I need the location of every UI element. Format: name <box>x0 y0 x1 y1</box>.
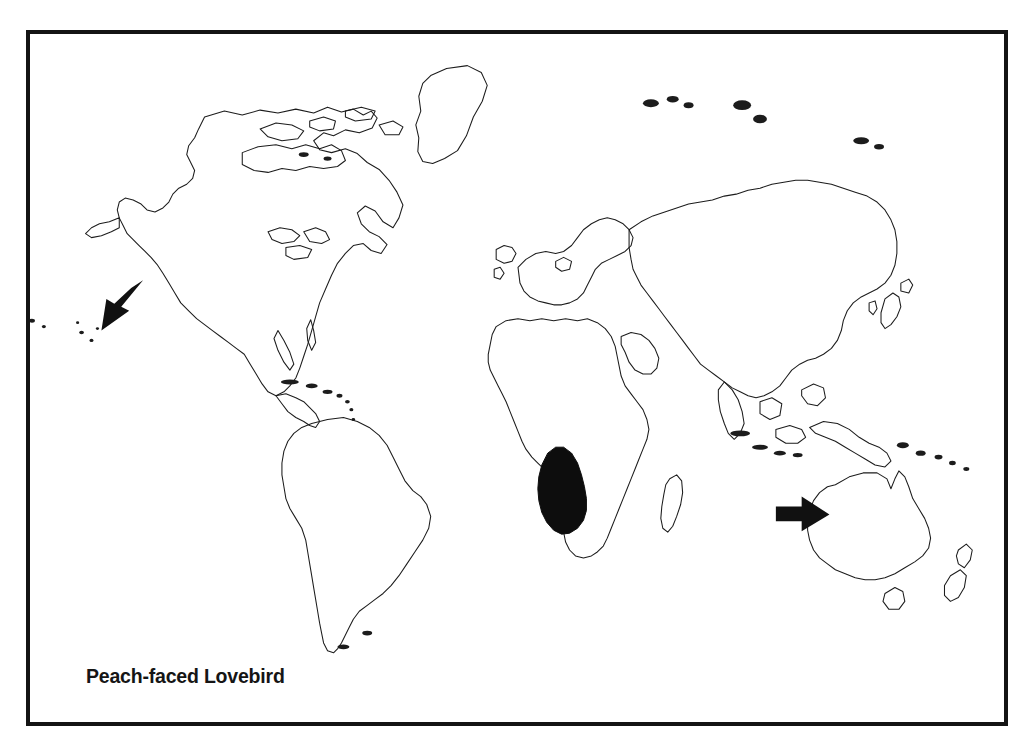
map-frame-border: Peach-faced Lovebird <box>26 30 1008 726</box>
landmass-central-america-caribbean <box>276 379 355 427</box>
arrow-hawaii <box>101 280 143 330</box>
landmass-hawaii <box>30 319 99 342</box>
distribution-map-figure: Peach-faced Lovebird <box>0 0 1032 750</box>
landmass-south-america <box>282 418 431 653</box>
landmass-africa <box>488 319 682 558</box>
map-canvas <box>30 34 1004 722</box>
landmass-europe <box>494 218 633 305</box>
landmass-north-america <box>86 107 403 396</box>
figure-caption: Peach-faced Lovebird <box>86 665 285 688</box>
range-patch-southwest-africa <box>538 447 587 534</box>
landmass-canadian-arctic <box>242 107 403 172</box>
landmass-indonesia-newguinea <box>730 384 969 471</box>
world-map-svg <box>30 34 1004 722</box>
landmass-australia <box>808 471 973 609</box>
landmass-asia <box>629 96 913 439</box>
landmass-greenland <box>416 66 487 164</box>
arrow-australia <box>776 497 830 532</box>
